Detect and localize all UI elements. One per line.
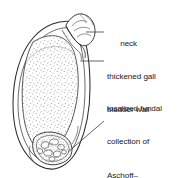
anatomical-drawing	[0, 0, 184, 178]
gallbladder-adenomyoma-figure: neck thickened gall bladder wall localiz…	[0, 0, 184, 178]
